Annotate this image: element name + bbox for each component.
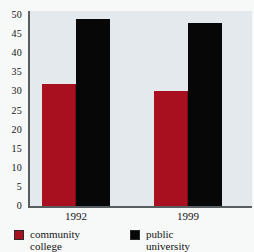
bar-1992-public-university xyxy=(76,19,110,206)
y-axis-tick-0: 0 xyxy=(0,201,22,211)
legend-swatch-black-icon xyxy=(130,230,140,240)
plot-area xyxy=(28,11,252,207)
x-axis-label-1999: 1999 xyxy=(153,210,223,223)
y-axis-tick-5: 5 xyxy=(0,182,22,192)
x-axis-category-labels: 19921999 xyxy=(28,210,252,226)
legend-label-public-university: public university xyxy=(146,228,190,252)
y-axis-tick-40: 40 xyxy=(0,48,22,58)
y-axis-tick-15: 15 xyxy=(0,144,22,154)
x-axis-label-1992: 1992 xyxy=(41,210,111,223)
bar-1992-community-college xyxy=(42,84,76,206)
y-axis-tick-10: 10 xyxy=(0,163,22,173)
chart-legend: community college public university xyxy=(14,228,254,252)
y-axis-tick-20: 20 xyxy=(0,125,22,135)
bar-1999-public-university xyxy=(188,23,222,206)
bar-chart-figure: 50454035302520151050 19921999 community … xyxy=(0,0,254,252)
y-axis-tick-45: 45 xyxy=(0,29,22,39)
y-axis-tick-25: 25 xyxy=(0,106,22,116)
legend-label-community-college: community college xyxy=(30,228,80,252)
y-axis-tick-30: 30 xyxy=(0,86,22,96)
legend-swatch-red-icon xyxy=(14,230,24,240)
bar-1999-community-college xyxy=(154,91,188,206)
y-axis-tick-50: 50 xyxy=(0,10,22,20)
y-axis-tick-35: 35 xyxy=(0,67,22,77)
bars-layer xyxy=(28,11,252,207)
